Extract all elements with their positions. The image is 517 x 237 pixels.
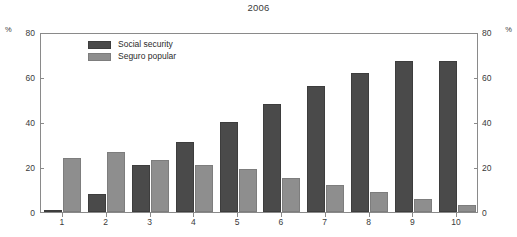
bar-social-security-3 xyxy=(132,165,150,212)
x-axis-tick-mark-7 xyxy=(325,213,326,217)
x-axis-tick-label-4: 4 xyxy=(178,218,208,227)
bar-seguro-popular-4 xyxy=(195,165,213,212)
chart-figure: 2006 % % 00202040406060808012345678910 S… xyxy=(0,0,517,237)
y-axis-tick-label-left-0: 0 xyxy=(0,209,35,218)
bar-seguro-popular-8 xyxy=(370,192,388,212)
x-axis-tick-mark-10 xyxy=(456,213,457,217)
legend-swatch-social-security-icon xyxy=(88,41,111,49)
bar-seguro-popular-3 xyxy=(151,160,169,212)
bar-seguro-popular-2 xyxy=(107,152,125,212)
y-axis-tick-label-right-40: 40 xyxy=(482,119,517,128)
bar-seguro-popular-5 xyxy=(239,169,257,212)
chart-title: 2006 xyxy=(0,2,517,13)
bar-seguro-popular-10 xyxy=(458,205,476,212)
chart-legend: Social security Seguro popular xyxy=(88,39,176,63)
y-axis-tick-label-left-20: 20 xyxy=(0,164,35,173)
y-axis-tick-label-right-0: 0 xyxy=(482,209,517,218)
legend-label-seguro-popular: Seguro popular xyxy=(118,52,176,61)
bar-social-security-8 xyxy=(351,73,369,213)
legend-item-social-security: Social security xyxy=(88,39,176,50)
bar-social-security-4 xyxy=(176,142,194,212)
y-axis-tick-mark-left-60 xyxy=(40,78,44,79)
x-axis-tick-mark-2 xyxy=(106,213,107,217)
bar-social-security-5 xyxy=(220,122,238,212)
x-axis-tick-mark-1 xyxy=(62,213,63,217)
y-axis-tick-mark-right-20 xyxy=(474,168,478,169)
x-axis-tick-label-9: 9 xyxy=(397,218,427,227)
legend-swatch-seguro-popular-icon xyxy=(88,53,111,61)
x-axis-tick-label-3: 3 xyxy=(135,218,165,227)
bar-social-security-1 xyxy=(44,210,62,212)
x-axis-tick-mark-8 xyxy=(369,213,370,217)
y-axis-tick-label-right-80: 80 xyxy=(482,29,517,38)
x-axis-tick-label-7: 7 xyxy=(310,218,340,227)
bar-seguro-popular-6 xyxy=(282,178,300,212)
bar-seguro-popular-9 xyxy=(414,199,432,213)
y-axis-tick-mark-right-40 xyxy=(474,123,478,124)
y-axis-tick-mark-right-60 xyxy=(474,78,478,79)
y-axis-tick-label-right-60: 60 xyxy=(482,74,517,83)
x-axis-tick-mark-3 xyxy=(150,213,151,217)
legend-label-social-security: Social security xyxy=(118,40,173,49)
bar-social-security-7 xyxy=(307,86,325,212)
y-axis-tick-label-left-40: 40 xyxy=(0,119,35,128)
x-axis-tick-label-1: 1 xyxy=(47,218,77,227)
bar-social-security-6 xyxy=(263,104,281,212)
x-axis-tick-label-5: 5 xyxy=(222,218,252,227)
x-axis-tick-label-10: 10 xyxy=(441,218,471,227)
bar-seguro-popular-7 xyxy=(326,185,344,212)
x-axis-tick-mark-9 xyxy=(412,213,413,217)
x-axis-tick-label-6: 6 xyxy=(266,218,296,227)
y-axis-tick-mark-left-20 xyxy=(40,168,44,169)
legend-item-seguro-popular: Seguro popular xyxy=(88,51,176,62)
x-axis-tick-mark-5 xyxy=(237,213,238,217)
x-axis-tick-label-8: 8 xyxy=(354,218,384,227)
bar-social-security-2 xyxy=(88,194,106,212)
y-axis-tick-label-right-20: 20 xyxy=(482,164,517,173)
x-axis-tick-mark-4 xyxy=(193,213,194,217)
y-axis-tick-label-left-80: 80 xyxy=(0,29,35,38)
x-axis-tick-mark-6 xyxy=(281,213,282,217)
y-axis-tick-label-left-60: 60 xyxy=(0,74,35,83)
y-axis-tick-mark-left-40 xyxy=(40,123,44,124)
x-axis-tick-label-2: 2 xyxy=(91,218,121,227)
bar-social-security-9 xyxy=(395,61,413,212)
bar-social-security-10 xyxy=(439,61,457,212)
bar-seguro-popular-1 xyxy=(63,158,81,212)
